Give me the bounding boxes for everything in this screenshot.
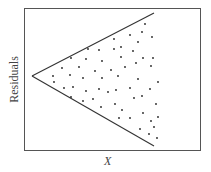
data-point: [117, 75, 119, 77]
data-point: [70, 57, 72, 59]
data-point: [150, 120, 152, 122]
data-point: [132, 50, 134, 52]
data-point: [70, 96, 72, 98]
data-point: [142, 57, 144, 59]
x-axis-label: X: [104, 154, 111, 169]
data-point: [72, 86, 74, 88]
residual-scatter-plot: [0, 0, 211, 172]
data-point: [152, 57, 154, 59]
data-point: [133, 97, 135, 99]
data-point: [85, 58, 87, 60]
data-point: [94, 70, 96, 72]
data-point: [157, 81, 159, 83]
lower-envelope-line: [32, 76, 154, 146]
data-point: [141, 95, 143, 97]
data-point: [157, 116, 159, 118]
data-point: [98, 49, 100, 51]
data-point: [124, 66, 126, 68]
upper-envelope-line: [32, 13, 154, 76]
data-point: [87, 48, 89, 50]
data-point: [151, 36, 153, 38]
data-point: [137, 78, 139, 80]
data-point: [153, 126, 155, 128]
data-point: [120, 46, 122, 48]
data-point: [82, 77, 84, 79]
data-point: [120, 56, 122, 58]
data-point: [113, 48, 115, 50]
data-point: [129, 87, 131, 89]
data-point: [85, 90, 87, 92]
data-point: [156, 137, 158, 139]
data-point: [69, 74, 71, 76]
data-point: [100, 106, 102, 108]
data-points: [52, 23, 159, 139]
data-point: [155, 103, 157, 105]
data-point: [107, 91, 109, 93]
data-point: [142, 112, 144, 114]
data-point: [63, 87, 65, 89]
data-point: [115, 89, 117, 91]
data-point: [141, 31, 143, 33]
data-point: [52, 75, 54, 77]
data-point: [137, 41, 139, 43]
data-point: [114, 103, 116, 105]
data-point: [150, 65, 152, 67]
data-point: [129, 117, 131, 119]
y-axis-label: Residuals: [7, 50, 22, 110]
data-point: [110, 69, 112, 71]
data-point: [101, 60, 103, 62]
data-point: [144, 23, 146, 25]
data-point: [135, 62, 137, 64]
plot-frame: [25, 9, 201, 151]
data-point: [148, 133, 150, 135]
data-point: [92, 98, 94, 100]
data-point: [98, 88, 100, 90]
data-point: [118, 117, 120, 119]
data-point: [121, 109, 123, 111]
data-point: [61, 67, 63, 69]
data-point: [113, 38, 115, 40]
data-point: [149, 88, 151, 90]
data-point: [139, 128, 141, 130]
data-point: [53, 81, 55, 83]
data-point: [82, 100, 84, 102]
data-point: [101, 77, 103, 79]
data-point: [78, 66, 80, 68]
data-point: [129, 34, 131, 36]
